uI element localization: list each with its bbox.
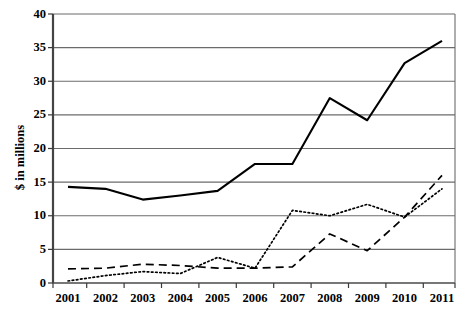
chart-container: $ in millions 0510152025303540 200120022… bbox=[0, 0, 470, 327]
y-tick-label: 20 bbox=[14, 142, 46, 155]
series-line-solid-series bbox=[68, 41, 442, 200]
y-tick-label: 5 bbox=[14, 243, 46, 256]
x-tick-label: 2011 bbox=[420, 292, 464, 305]
data-series-group bbox=[68, 41, 442, 281]
x-axis-ticks bbox=[53, 283, 455, 288]
chart-plot-area bbox=[0, 0, 470, 327]
y-tick-label: 10 bbox=[14, 209, 46, 222]
y-tick-label: 0 bbox=[14, 277, 46, 290]
series-line-dashed-series bbox=[68, 175, 442, 268]
y-tick-label: 40 bbox=[14, 8, 46, 21]
y-tick-label: 30 bbox=[14, 75, 46, 88]
y-tick-label: 25 bbox=[14, 108, 46, 121]
y-tick-label: 15 bbox=[14, 176, 46, 189]
y-tick-label: 35 bbox=[14, 41, 46, 54]
